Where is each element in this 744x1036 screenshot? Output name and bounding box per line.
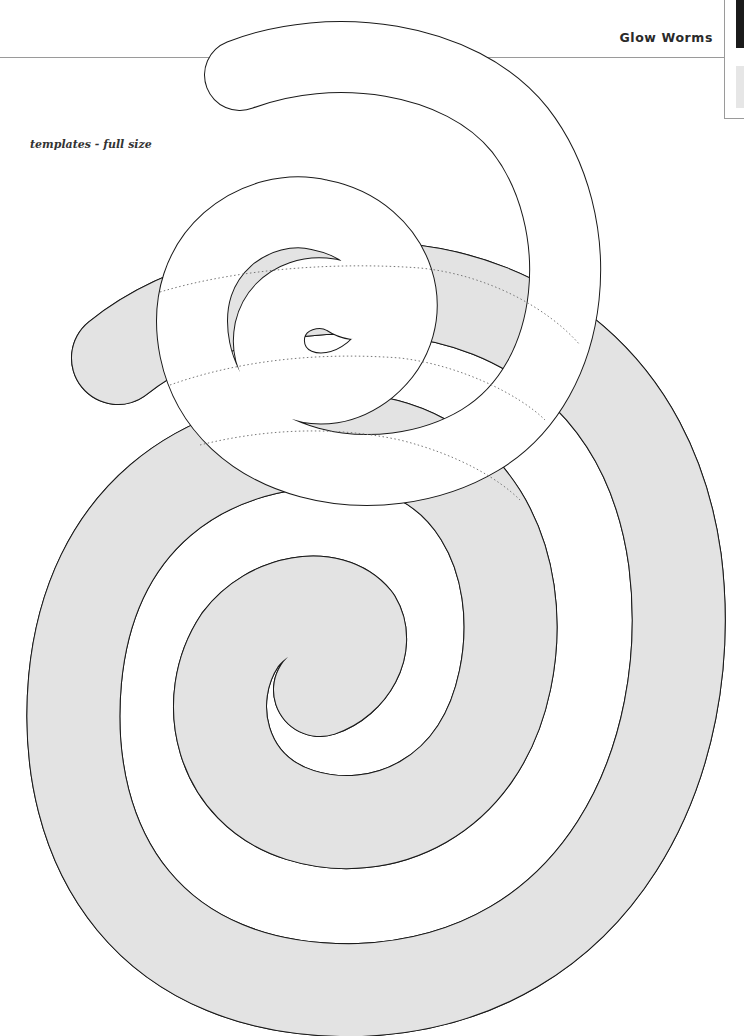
spiral-templates-figure — [0, 0, 744, 1036]
